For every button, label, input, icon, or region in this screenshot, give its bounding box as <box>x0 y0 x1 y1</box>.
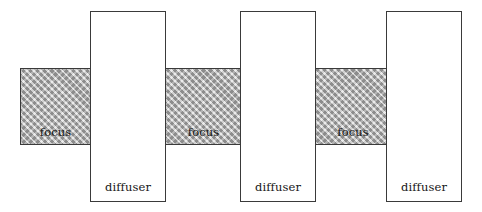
focus-band: focus <box>165 68 242 145</box>
diagram-canvas: focus focus focus diffuser diffuser diff… <box>0 0 482 212</box>
focus-band-label: focus <box>316 127 390 139</box>
focus-band: focus <box>20 68 91 145</box>
diffuser-box-label: diffuser <box>91 182 165 194</box>
diffuser-box-label: diffuser <box>387 182 461 194</box>
diffuser-box: diffuser <box>386 11 462 202</box>
diffuser-box: diffuser <box>90 11 166 202</box>
diffuser-box: diffuser <box>240 11 316 202</box>
focus-band-label: focus <box>21 127 90 139</box>
diffuser-box-label: diffuser <box>241 182 315 194</box>
focus-band: focus <box>315 68 391 145</box>
focus-band-label: focus <box>166 127 241 139</box>
